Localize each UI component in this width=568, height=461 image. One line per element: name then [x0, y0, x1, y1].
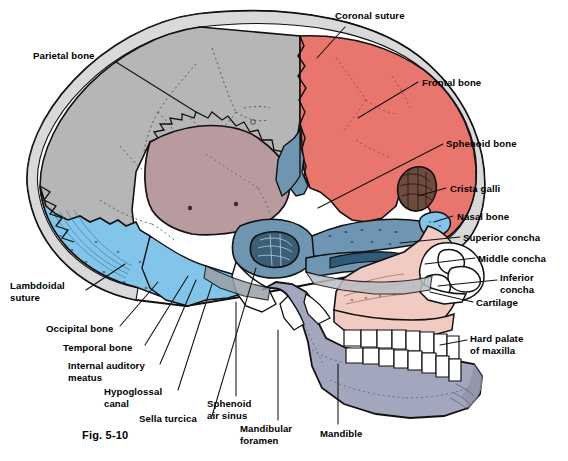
label-cartilage: Cartilage — [476, 297, 518, 309]
label-parietal-bone: Parietal bone — [33, 50, 95, 62]
label-crista-galli: Crista galli — [450, 183, 500, 195]
label-sella-turcica: Sella turcica — [139, 413, 197, 425]
sella-turcica-detail — [250, 232, 299, 268]
nasal-cartilage-region — [420, 243, 484, 304]
label-sphenoid-air-sinus: Sphenoid air sinus — [207, 398, 252, 421]
figure-caption: Fig. 5-10 — [82, 429, 128, 441]
label-mandibular-foramen: Mandibular foramen — [240, 423, 292, 446]
figure-canvas: Parietal boneCoronal sutureFrontal boneS… — [0, 0, 568, 461]
label-superior-concha: Superior concha — [463, 232, 540, 244]
label-frontal-bone: Frontal bone — [422, 77, 481, 89]
label-inferior-concha: Inferior concha — [500, 272, 534, 295]
label-hard-palate-maxilla: Hard palate of maxilla — [470, 333, 523, 356]
skull-sagittal-illustration — [0, 0, 568, 461]
label-mandible: Mandible — [320, 428, 362, 440]
label-temporal-bone: Temporal bone — [63, 342, 132, 354]
label-sphenoid-bone: Sphenoid bone — [446, 138, 517, 150]
label-middle-concha: Middle concha — [478, 253, 546, 265]
label-internal-auditory-meatus: Internal auditory meatus — [68, 360, 145, 383]
label-occipital-bone: Occipital bone — [46, 323, 114, 335]
label-lambdoidal-suture: Lambdoidal suture — [10, 280, 65, 303]
label-hypoglossal-canal: Hypoglossal canal — [104, 386, 162, 409]
crista-galli-detail — [398, 167, 437, 211]
label-nasal-bone: Nasal bone — [457, 211, 509, 223]
label-coronal-suture: Coronal suture — [335, 10, 405, 22]
